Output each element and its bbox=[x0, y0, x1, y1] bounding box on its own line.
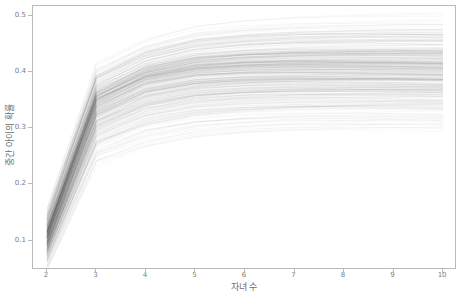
y-tick-mark bbox=[28, 71, 32, 72]
x-tick-label: 4 bbox=[133, 272, 157, 279]
chart-title bbox=[0, 0, 469, 1]
x-tick-label: 5 bbox=[182, 272, 206, 279]
y-tick-label: 0.1 bbox=[4, 236, 26, 243]
x-tick-label: 9 bbox=[381, 272, 405, 279]
simulation-curve bbox=[47, 113, 443, 260]
x-tick-mark bbox=[343, 269, 344, 273]
simulation-curve bbox=[47, 120, 443, 262]
x-tick-mark bbox=[294, 269, 295, 273]
x-tick-mark bbox=[442, 269, 443, 273]
x-tick-mark bbox=[46, 269, 47, 273]
simulation-curve bbox=[47, 127, 443, 269]
y-tick-mark bbox=[28, 240, 32, 241]
x-axis-title: 자녀 수 bbox=[32, 283, 456, 293]
simulation-curve bbox=[47, 130, 443, 266]
y-axis-title: 중간 아이의 확률 bbox=[6, 85, 16, 185]
x-tick-mark bbox=[244, 269, 245, 273]
x-tick-mark bbox=[194, 269, 195, 273]
simulation-curve bbox=[47, 120, 443, 268]
y-tick-mark bbox=[28, 183, 32, 184]
plot-area bbox=[32, 5, 456, 269]
spaghetti-lines bbox=[33, 6, 456, 269]
y-tick-mark bbox=[28, 15, 32, 16]
simulation-curve bbox=[47, 127, 443, 269]
simulation-curve bbox=[47, 123, 443, 269]
x-tick-mark bbox=[95, 269, 96, 273]
y-tick-label: 0.5 bbox=[4, 11, 26, 18]
x-tick-label: 8 bbox=[331, 272, 355, 279]
x-tick-label: 7 bbox=[282, 272, 306, 279]
x-tick-label: 6 bbox=[232, 272, 256, 279]
x-tick-label: 2 bbox=[34, 272, 58, 279]
chart-figure: 0.10.20.30.40.5 2345678910 자녀 수 중간 아이의 확… bbox=[0, 0, 469, 300]
x-tick-mark bbox=[145, 269, 146, 273]
simulation-curve bbox=[47, 127, 443, 266]
x-tick-label: 10 bbox=[430, 272, 454, 279]
x-tick-label: 3 bbox=[83, 272, 107, 279]
y-tick-label: 0.4 bbox=[4, 67, 26, 74]
x-tick-mark bbox=[393, 269, 394, 273]
y-tick-mark bbox=[28, 127, 32, 128]
